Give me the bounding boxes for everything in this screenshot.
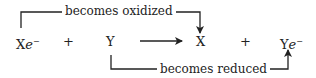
reduced-label: becomes reduced	[157, 63, 270, 75]
reactant-y: Y	[106, 35, 115, 48]
product-ye: Ye−	[280, 35, 303, 51]
oxidized-label: becomes oxidized	[62, 5, 176, 17]
reactant-xe: Xe−	[16, 35, 40, 51]
plus-sign-1: +	[63, 35, 74, 48]
plus-sign-2: +	[240, 35, 251, 48]
product-x: X	[196, 35, 205, 48]
